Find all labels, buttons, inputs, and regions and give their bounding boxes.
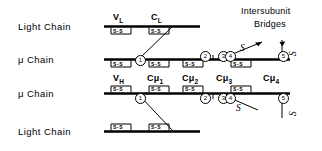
- ss-label-light-top-1: S-S: [113, 29, 123, 34]
- ss-label-mu-upper-1: S-S: [113, 62, 123, 67]
- domain-label-vh: VH: [113, 74, 124, 85]
- sulfur-label-lower-vertical: S: [289, 111, 299, 116]
- circled-number-mu-upper-1: 1: [135, 55, 146, 66]
- circled-number-mu-lower-2: 2: [200, 93, 211, 104]
- ss-label-mu-upper-2: S-S: [151, 62, 161, 67]
- circled-number-mu-lower-5: 5: [278, 93, 289, 104]
- chain-label-light-chain-bottom: Light Chain: [18, 127, 71, 137]
- circled-number-mu-lower-4: 4: [225, 93, 236, 104]
- sulfur-label-upper-vertical: S: [289, 51, 299, 56]
- domain-label-cmu2: Cμ2: [182, 74, 198, 85]
- domain-label-vl: VL: [113, 13, 123, 24]
- circled-number-mu-upper-2: 2: [200, 51, 211, 62]
- circled-number-mu-lower-1: 1: [135, 93, 146, 104]
- ss-label-mu-lower-3: S-S: [185, 87, 195, 92]
- domain-label-cmu3-sub: 3: [228, 78, 232, 85]
- sulfur-label-upper-diagonal: S: [240, 44, 245, 54]
- sulfur-label-lower-diagonal: S: [236, 104, 241, 114]
- domain-label-cmu1-text: Cμ: [147, 73, 159, 83]
- domain-label-cmu3: Cμ3: [216, 74, 232, 85]
- domain-label-cl-text: C: [151, 12, 158, 22]
- domain-label-cl: CL: [151, 13, 162, 24]
- ss-label-light-bottom-1: S-S: [113, 125, 123, 130]
- domain-label-cmu2-sub: 2: [194, 78, 198, 85]
- figure-canvas: Light Chain μ Chain μ Chain Light Chain …: [0, 0, 322, 151]
- domain-label-cmu2-text: Cμ: [182, 73, 194, 83]
- domain-label-cl-sub: L: [158, 17, 162, 24]
- domain-label-vl-sub: L: [119, 17, 123, 24]
- chain-label-mu-chain-upper: μ Chain: [18, 55, 54, 65]
- ss-label-mu-upper-3: S-S: [185, 62, 195, 67]
- domain-label-cmu4-text: Cμ: [263, 73, 275, 83]
- domain-label-cmu1-sub: 1: [159, 78, 163, 85]
- chain-label-light-chain-top: Light Chain: [18, 22, 71, 32]
- ss-label-light-bottom-2: S-S: [151, 125, 161, 130]
- ss-label-light-top-2: S-S: [151, 29, 161, 34]
- annotation-intersubunit-bridges-line1: Intersubunit: [241, 6, 290, 18]
- bridge-arrowhead-upper-vertical: [280, 41, 286, 46]
- annotation-intersubunit-bridges-line2: Bridges: [254, 19, 286, 31]
- ss-label-mu-lower-1: S-S: [113, 87, 123, 92]
- domain-label-cmu1: Cμ1: [147, 74, 163, 85]
- domain-label-cmu4-sub: 4: [275, 78, 279, 85]
- ss-bracket-group-mu-lower: [111, 86, 251, 93]
- domain-label-cmu4: Cμ4: [263, 74, 279, 85]
- chain-label-mu-chain-lower: μ Chain: [18, 89, 54, 99]
- ss-label-mu-upper-4: S-S: [233, 62, 243, 67]
- domain-label-cmu3-text: Cμ: [216, 73, 228, 83]
- circled-number-mu-upper-4: 4: [225, 51, 236, 62]
- ss-label-mu-lower-2: S-S: [151, 87, 161, 92]
- domain-label-vh-sub: H: [119, 78, 124, 85]
- ss-label-mu-lower-4: S-S: [233, 87, 243, 92]
